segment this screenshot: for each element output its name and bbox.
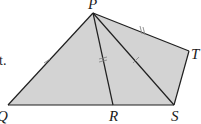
fragment-text: t.	[0, 53, 6, 68]
point-label-p: P	[87, 0, 97, 12]
point-label-r: R	[108, 108, 118, 124]
geometry-diagram: P T S R Q t.	[0, 0, 201, 124]
point-label-s: S	[171, 108, 179, 124]
point-label-q: Q	[0, 108, 8, 124]
point-label-t: T	[191, 46, 201, 62]
